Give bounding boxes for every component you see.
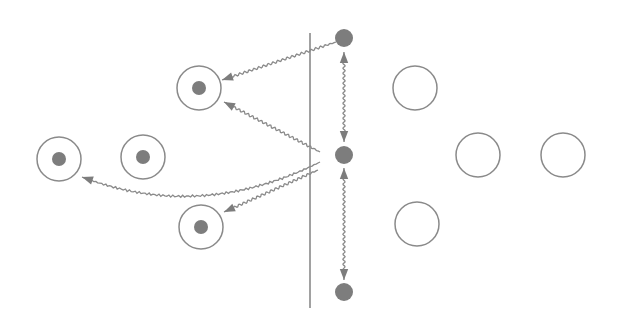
cell-nucleus (192, 81, 206, 95)
cells-layer (37, 66, 585, 249)
diagram-canvas (0, 0, 617, 325)
cell-nucleus (52, 152, 66, 166)
arrowhead-icon (340, 168, 348, 179)
empty-circle-middle-right (541, 133, 585, 177)
cell-nucleus (136, 150, 150, 164)
wavy-line (222, 42, 336, 80)
arrowhead-icon (340, 131, 348, 142)
arrowhead-icon (224, 102, 236, 111)
arrow-middle-bottom-link (340, 168, 348, 280)
arrowhead-icon (340, 269, 348, 280)
boundary-dot-top (335, 29, 353, 47)
boundary-dot-bottom (335, 283, 353, 301)
empty-circle-lower (395, 202, 439, 246)
boundary-dot-middle (335, 146, 353, 164)
ringed-cell-upper (177, 66, 221, 110)
arrow-top-dot-to-upper-cell (222, 42, 336, 81)
arrowhead-icon (340, 52, 348, 63)
cell-nucleus (194, 220, 208, 234)
empty-circle-middle-left (456, 133, 500, 177)
wavy-line (82, 162, 320, 197)
wavy-line (343, 168, 345, 280)
arrowhead-icon (224, 204, 236, 212)
ringed-cell-far-left (37, 137, 81, 181)
ringed-cell-lower (179, 205, 223, 249)
ringed-cell-center-left (121, 135, 165, 179)
wavy-line (224, 102, 320, 152)
arrowhead-icon (222, 73, 234, 81)
arrow-middle-dot-to-upper-cell (224, 102, 320, 152)
diagram-svg (0, 0, 617, 325)
arrow-top-middle-link (340, 52, 348, 142)
empty-circle-upper (393, 66, 437, 110)
wavy-line (343, 52, 345, 142)
arrow-middle-dot-to-far-left-cell (82, 162, 320, 197)
arrowhead-icon (82, 177, 94, 185)
